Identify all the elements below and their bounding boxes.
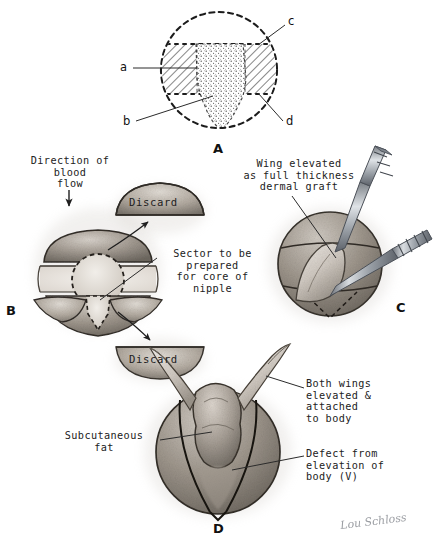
label-defect-from-elevation: Defect from elevation of body (V) <box>306 448 428 483</box>
label-subcutaneous-fat: Subcutaneous fat <box>48 430 160 453</box>
panel-letter-b: B <box>6 303 16 318</box>
panel-d-drawing <box>144 344 304 520</box>
discard-upper-shape <box>114 183 206 234</box>
label-discard-lower: Discard <box>129 353 178 365</box>
diagram-marker-c: c <box>288 14 294 28</box>
panel-letter-d: D <box>213 521 224 536</box>
panel-a-diagram <box>133 12 285 130</box>
illustration-plate: a b c d A Direction of blood flow Discar… <box>0 0 436 550</box>
label-wing-elevated-dermal-graft: Wing elevated as full thickness dermal g… <box>224 158 374 193</box>
diagram-marker-a: a <box>120 60 127 74</box>
diagram-marker-d: d <box>286 114 293 128</box>
panel-b-body <box>34 230 162 336</box>
label-sector-for-core: Sector to be prepared for core of nipple <box>150 248 275 294</box>
label-both-wings-attached: Both wings elevated & attached to body <box>306 378 428 424</box>
panel-letter-a: A <box>213 141 223 156</box>
panel-letter-c: C <box>396 300 406 315</box>
label-direction-of-blood-flow: Direction of blood flow <box>10 155 130 190</box>
label-discard-upper: Discard <box>129 196 178 208</box>
diagram-marker-b: b <box>123 114 130 128</box>
